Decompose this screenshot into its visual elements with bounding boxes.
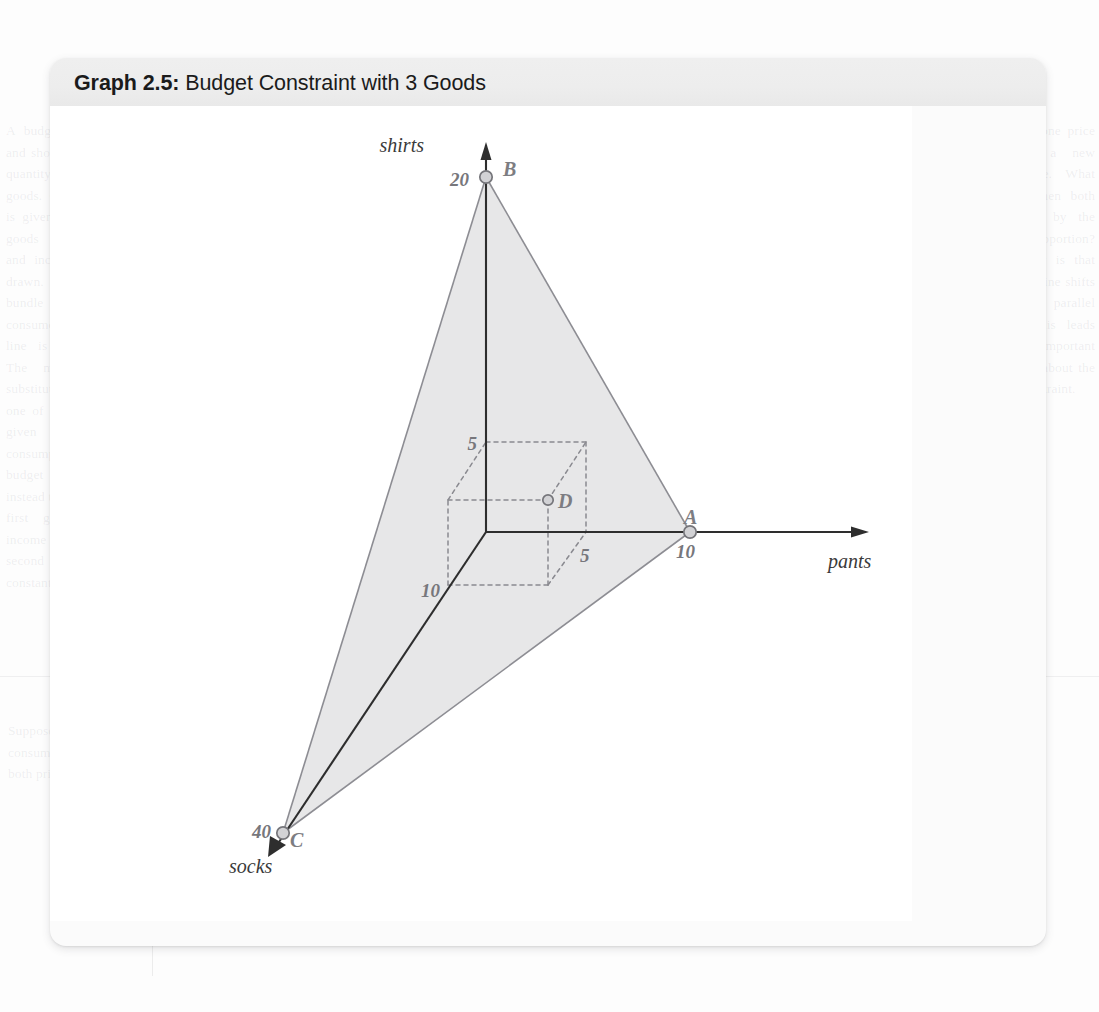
figure-title-rest: Budget Constraint with 3 Goods: [179, 71, 485, 95]
figure-card: Graph 2.5: Budget Constraint with 3 Good…: [50, 58, 1046, 946]
figure-title: Graph 2.5: Budget Constraint with 3 Good…: [74, 71, 486, 96]
figure-title-lead: Graph 2.5:: [74, 71, 179, 95]
plot-canvas: [50, 106, 912, 921]
